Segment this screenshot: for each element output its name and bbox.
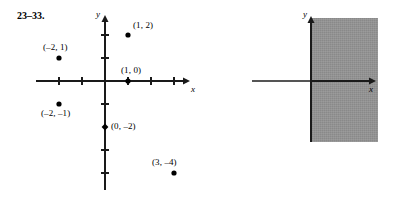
coordinate-plane-left xyxy=(0,0,200,198)
point-label-1-2: (1, 2) xyxy=(133,20,153,30)
point-marker-m2-1 xyxy=(56,55,61,60)
point-marker-0-m2 xyxy=(102,123,109,130)
point-marker-1-0 xyxy=(125,78,130,83)
point-label-m2-1: (–2, 1) xyxy=(43,42,68,52)
coordinate-plane-right xyxy=(200,0,396,198)
point-marker-m2-m1 xyxy=(56,101,61,106)
y-axis-arrowhead-right xyxy=(308,16,315,23)
x-axis-label-left: x xyxy=(191,84,195,94)
x-axis-label-right: x xyxy=(369,84,373,94)
x-axis-arrowhead-left xyxy=(183,78,190,85)
point-marker-3-m4 xyxy=(171,170,176,175)
y-axis-arrowhead-left xyxy=(102,15,109,22)
figure-root: 23–33. xyxy=(0,0,396,198)
exercise-panel-23-33: 23–33. xyxy=(0,0,200,198)
point-label-3-m4: (3, –4) xyxy=(152,157,177,167)
exercise-panel-35: 35. x y xyxy=(200,0,396,198)
point-label-1-0: (1, 0) xyxy=(121,65,141,75)
y-axis-label-right: y xyxy=(303,9,307,19)
point-marker-1-2 xyxy=(125,32,130,37)
point-label-m2-m1: (–2, –1) xyxy=(41,108,70,118)
point-label-0-m2: (0, –2) xyxy=(111,121,136,131)
y-axis-label-left: y xyxy=(96,9,100,19)
